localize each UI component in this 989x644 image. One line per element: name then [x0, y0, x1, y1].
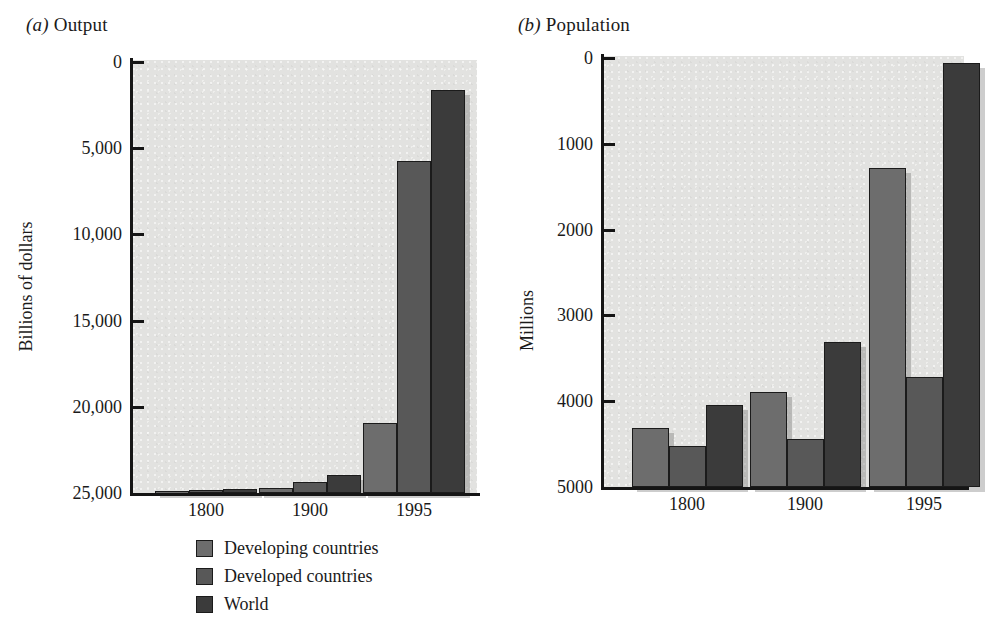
legend-swatch-world [196, 596, 213, 613]
bar [824, 342, 861, 487]
y-tick-label: 5000 [557, 477, 593, 498]
y-axis-title-population: Millions [517, 261, 538, 381]
bar [632, 428, 669, 487]
y-tick-label: 2000 [557, 219, 593, 240]
panel-population-label: (b) [518, 14, 541, 35]
x-axis-population [601, 487, 969, 490]
y-axis-output [130, 58, 133, 496]
x-axis-output [130, 493, 480, 496]
legend-label-developed: Developed countries [224, 566, 372, 587]
y-tick-mark [130, 61, 144, 64]
bar [787, 439, 824, 487]
legend-swatch-developing [196, 540, 213, 557]
y-tick-mark [601, 314, 615, 317]
panel-population: (b) Population 500040003000200010000 180… [494, 0, 988, 644]
bar [869, 168, 906, 487]
plot-area-output [133, 60, 477, 494]
y-tick-label: 15,000 [73, 310, 123, 331]
y-tick-label: 25,000 [73, 483, 123, 504]
legend-swatch-developed [196, 568, 213, 585]
y-tick-label: 1000 [557, 133, 593, 154]
x-tick-label: 1900 [292, 500, 328, 521]
legend-item: World [196, 592, 378, 616]
bar [327, 475, 361, 493]
bar [397, 161, 431, 493]
figure-two-panel-bar-charts: (a) Output 25,00020,00015,00010,0005,000… [0, 0, 989, 644]
y-tick-label: 20,000 [73, 396, 123, 417]
bar [750, 392, 787, 487]
bar [906, 377, 943, 487]
x-tick-label: 1995 [396, 500, 432, 521]
y-tick-mark [601, 400, 615, 403]
bar [363, 423, 397, 493]
legend-label-world: World [224, 594, 269, 615]
y-tick-mark [601, 143, 615, 146]
panel-output-title: (a) Output [26, 14, 108, 36]
bar [293, 482, 327, 493]
y-tick-mark [130, 147, 144, 150]
y-axis-population [601, 54, 604, 490]
bar [431, 90, 465, 493]
legend-item: Developing countries [196, 536, 378, 560]
x-tick-label: 1800 [188, 500, 224, 521]
y-tick-mark [130, 320, 144, 323]
legend-item: Developed countries [196, 564, 378, 588]
legend-output: Developing countries Developed countries… [196, 536, 378, 616]
y-tick-label: 4000 [557, 391, 593, 412]
bar-shadow [160, 496, 194, 498]
y-tick-label: 3000 [557, 305, 593, 326]
y-tick-mark [130, 233, 144, 236]
y-tick-label: 10,000 [73, 224, 123, 245]
y-tick-mark [601, 57, 615, 60]
legend-label-developing: Developing countries [224, 538, 378, 559]
y-tick-mark [601, 229, 615, 232]
panel-output-title-text: Output [54, 14, 108, 35]
y-axis-title-output: Billions of dollars [16, 207, 37, 367]
y-tick-label: 0 [113, 52, 122, 73]
y-tick-label: 5,000 [82, 138, 123, 159]
bar [669, 446, 706, 487]
x-tick-label: 1800 [669, 494, 705, 515]
y-tick-mark [130, 406, 144, 409]
bar [943, 63, 980, 487]
panel-population-title-text: Population [546, 14, 630, 35]
bar [706, 405, 743, 487]
panel-population-title: (b) Population [518, 14, 630, 36]
panel-output-label: (a) [26, 14, 49, 35]
plot-area-population [604, 56, 964, 488]
x-tick-label: 1900 [787, 494, 823, 515]
x-tick-label: 1995 [906, 494, 942, 515]
y-tick-label: 0 [584, 48, 593, 69]
panel-output: (a) Output 25,00020,00015,00010,0005,000… [0, 0, 494, 644]
